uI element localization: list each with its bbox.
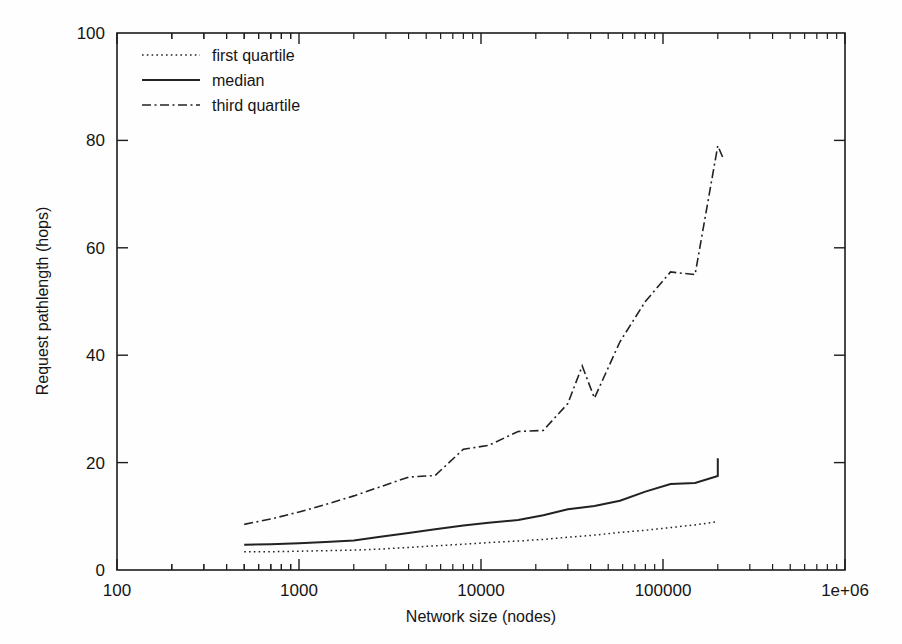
y-tick-label: 20: [86, 454, 105, 473]
chart-legend: first quartile median third quartile: [142, 47, 300, 114]
x-tick-label: 10000: [457, 581, 504, 600]
y-tick-label: 40: [86, 346, 105, 365]
y-axis-label: Request pathlength (hops): [34, 207, 51, 396]
x-axis-tick-labels: 1001000100001000001e+06: [103, 581, 869, 600]
y-tick-label: 0: [96, 561, 105, 580]
y-axis-tick-labels: 020406080100: [77, 24, 105, 580]
x-tick-label: 100000: [635, 581, 692, 600]
x-axis-label: Network size (nodes): [406, 608, 556, 625]
series-first-quartile: [244, 522, 718, 552]
legend-label-first-quartile: first quartile: [212, 47, 295, 64]
y-tick-label: 80: [86, 131, 105, 150]
x-tick-label: 1e+06: [821, 581, 869, 600]
y-tick-label: 100: [77, 24, 105, 43]
data-series-group: [244, 146, 723, 552]
legend-label-third-quartile: third quartile: [212, 97, 300, 114]
x-tick-label: 100: [103, 581, 131, 600]
line-chart-plot: 1001000100001000001e+06 020406080100 Net…: [0, 0, 902, 644]
y-tick-label: 60: [86, 239, 105, 258]
chart-figure: 1001000100001000001e+06 020406080100 Net…: [0, 0, 902, 644]
x-tick-label: 1000: [280, 581, 318, 600]
y-axis-ticks: [117, 140, 845, 462]
legend-label-median: median: [212, 72, 264, 89]
series-median: [244, 458, 718, 544]
series-third-quartile: [244, 146, 723, 525]
